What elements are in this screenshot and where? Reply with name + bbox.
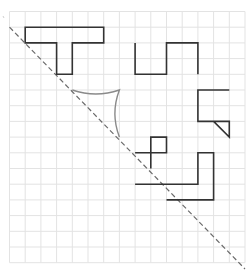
l-shape: [135, 153, 214, 200]
shapes-layer: [25, 27, 229, 200]
square-tail: [135, 153, 151, 169]
t-shape: [25, 27, 104, 74]
mirror-line: [10, 27, 246, 269]
small-square: [151, 137, 167, 153]
grid-diagram: [0, 0, 250, 275]
corner-mark: [3, 16, 4, 18]
concave-triangle-shape: [72, 90, 119, 137]
background-grid: [10, 12, 246, 263]
